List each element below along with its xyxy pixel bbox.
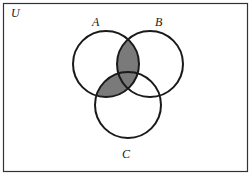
universe-label: U — [11, 6, 21, 20]
set-c-label: C — [122, 147, 131, 161]
set-b-label: B — [155, 15, 163, 29]
venn-diagram: U A B C — [0, 0, 251, 175]
set-a-label: A — [91, 15, 100, 29]
